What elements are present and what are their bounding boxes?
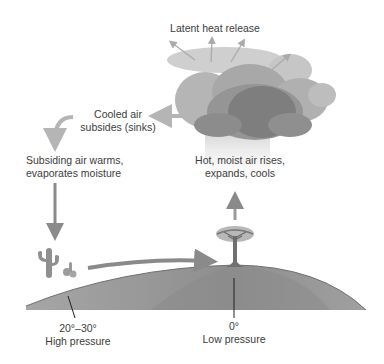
rainforest-tree-icon <box>216 226 254 267</box>
subsiding-line-1: Subsiding air warms, <box>26 154 123 167</box>
high-pressure-text: High pressure <box>38 335 118 348</box>
sinking-arrow <box>55 117 73 140</box>
earth-surface <box>26 265 366 310</box>
cooled-air-label: Cooled air subsides (sinks) <box>78 108 158 134</box>
hot-moist-line-2: expands, cools <box>190 167 290 180</box>
low-latitude-text: 0° <box>194 320 274 333</box>
subsiding-line-2: evaporates moisture <box>26 167 123 180</box>
low-pressure-label: 0° Low pressure <box>194 320 274 346</box>
trade-wind-arrow <box>88 260 206 268</box>
hadley-cell-diagram <box>0 0 384 364</box>
low-pressure-text: Low pressure <box>194 333 274 346</box>
high-latitude-text: 20°–30° <box>38 322 118 335</box>
hot-moist-air-label: Hot, moist air rises, expands, cools <box>190 154 290 180</box>
subsiding-air-label: Subsiding air warms, evaporates moisture <box>26 154 123 180</box>
latent-heat-text: Latent heat release <box>170 22 260 34</box>
high-pressure-label: 20°–30° High pressure <box>38 322 118 348</box>
cooled-air-line-1: Cooled air <box>78 108 158 121</box>
cooled-air-line-2: subsides (sinks) <box>78 121 158 134</box>
hot-moist-line-1: Hot, moist air rises, <box>190 154 290 167</box>
storm-cloud <box>167 47 336 140</box>
latent-heat-label: Latent heat release <box>160 22 270 35</box>
cactus-icon <box>38 248 77 278</box>
